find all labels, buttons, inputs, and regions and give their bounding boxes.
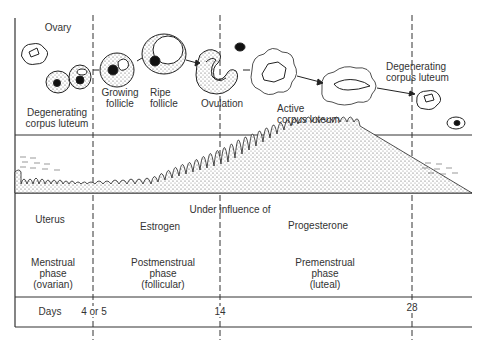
stage-label-growing: Growing follicle [98,87,142,109]
stage-label-line: follicle [150,98,178,109]
hormone-progesterone: Progesterone [278,220,358,231]
stage-label-degenerating-right: Degenerating corpus luteum [386,61,449,83]
phase-label-line: (ovarian) [18,279,88,290]
stage-label-line: Ripe [150,87,178,98]
hormone-estrogen: Estrogen [120,221,200,232]
stage-label-line: corpus luteum [386,72,449,83]
stage-label-line: Degenerating [386,61,449,72]
stage-label-line: corpus luteum [277,114,340,125]
phase-premenstrual: Premenstrual phase (luteal) [280,257,370,290]
stage-label-line: follicle [98,98,142,109]
ovary-title: Ovary [28,22,88,33]
stage-label-ovulation: Ovulation [197,98,247,109]
phase-label-line: Menstrual [18,257,88,268]
phase-label-line: Premenstrual [280,257,370,268]
stage-label-degenerating-left: Degenerating corpus luteum [22,107,92,129]
stage-label-active: Active corpus luteum [277,103,340,125]
phase-label-line: (follicular) [118,279,208,290]
uterus-title: Uterus [25,214,75,225]
phase-postmenstrual: Postmenstrual phase (follicular) [118,257,208,290]
day-tick-14: 14 [212,306,228,317]
stage-label-line: Ovulation [197,98,247,109]
days-label: Days [30,306,70,317]
stage-label-ripe: Ripe follicle [150,87,178,109]
influence-label: Under influence of [180,204,280,215]
ovulation-icon [196,50,238,94]
day-tick-4-or-5: 4 or 5 [79,306,109,317]
day-tick-28: 28 [404,302,420,313]
stage-label-line: corpus luteum [22,118,92,129]
phase-label-line: phase [280,268,370,279]
phase-label-line: phase [118,268,208,279]
stage-label-line: Active [277,103,340,114]
phase-label-line: phase [18,268,88,279]
phase-label-line: (luteal) [280,279,370,290]
stage-label-line: Degenerating [22,107,92,118]
phase-menstrual: Menstrual phase (ovarian) [18,257,88,290]
phase-label-line: Postmenstrual [118,257,208,268]
stage-label-line: Growing [98,87,142,98]
ovum-icon [235,43,245,51]
